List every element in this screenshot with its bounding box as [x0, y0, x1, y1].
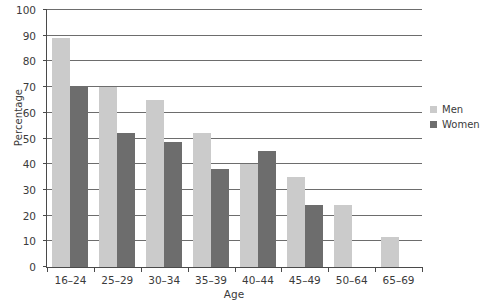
- bar-group: 45–49: [281, 10, 328, 267]
- x-axis-tick: [235, 267, 236, 272]
- x-axis-tick-label: 50–64: [336, 274, 368, 286]
- bar-women: [211, 169, 229, 267]
- legend-item-men: Men: [430, 104, 480, 115]
- x-axis-tick: [188, 267, 189, 272]
- bar-group: 50–64: [328, 10, 375, 267]
- y-axis-tick-label: 100: [16, 4, 36, 16]
- bar-group: 40–44: [235, 10, 282, 267]
- x-axis-tick: [328, 267, 329, 272]
- bar-women: [164, 142, 182, 267]
- x-axis-tick: [281, 267, 282, 272]
- y-axis-tick-label: 80: [23, 55, 36, 67]
- y-axis-tick-label: 0: [29, 261, 36, 273]
- bar-women: [70, 87, 88, 267]
- bar-group: 30–34: [141, 10, 188, 267]
- y-axis-tick-label: 40: [23, 158, 36, 170]
- bar-group: 65–69: [375, 10, 422, 267]
- x-axis-title: Age: [46, 288, 422, 300]
- legend-label: Women: [442, 119, 480, 130]
- bar-men: [99, 87, 117, 267]
- y-axis-tick-label: 60: [23, 107, 36, 119]
- x-axis-tick: [141, 267, 142, 272]
- x-axis-tick: [94, 267, 95, 272]
- legend-item-women: Women: [430, 119, 480, 130]
- bar-men: [381, 237, 399, 267]
- y-axis-tick-label: 70: [23, 81, 36, 93]
- bar-groups: 16–2425–2930–3435–3940–4445–4950–6465–69: [47, 10, 422, 267]
- y-axis-tick-label: 20: [23, 210, 36, 222]
- bar-men: [146, 100, 164, 267]
- x-axis-tick-label: 35–39: [195, 274, 227, 286]
- x-axis-tick-label: 65–69: [383, 274, 415, 286]
- bar-men: [193, 133, 211, 267]
- x-axis-tick-label: 16–24: [54, 274, 86, 286]
- x-axis-tick-label: 25–29: [101, 274, 133, 286]
- legend: MenWomen: [430, 104, 480, 134]
- bar-men: [52, 38, 70, 267]
- x-axis-tick: [375, 267, 376, 272]
- bar-chart: Percentage 0102030405060708090100 16–242…: [0, 0, 492, 308]
- x-axis-tick-label: 40–44: [242, 274, 274, 286]
- bar-men: [240, 164, 258, 267]
- x-axis-tick: [422, 267, 423, 272]
- bar-women: [258, 151, 276, 267]
- bar-women: [305, 205, 323, 267]
- x-axis-tick-label: 45–49: [289, 274, 321, 286]
- y-axis-tick-label: 10: [23, 235, 36, 247]
- legend-swatch-icon: [430, 121, 437, 128]
- bar-group: 35–39: [188, 10, 235, 267]
- y-axis-tick-label: 90: [23, 30, 36, 42]
- bar-group: 16–24: [47, 10, 94, 267]
- legend-swatch-icon: [430, 106, 437, 113]
- bar-women: [117, 133, 135, 267]
- bar-group: 25–29: [94, 10, 141, 267]
- legend-label: Men: [442, 104, 463, 115]
- plot-area: 0102030405060708090100 16–2425–2930–3435…: [46, 10, 422, 268]
- x-axis-tick: [47, 267, 48, 272]
- bar-men: [287, 177, 305, 267]
- bar-men: [334, 205, 352, 267]
- y-axis-tick-label: 50: [23, 133, 36, 145]
- y-axis-tick-label: 30: [23, 184, 36, 196]
- x-axis-tick-label: 30–34: [148, 274, 180, 286]
